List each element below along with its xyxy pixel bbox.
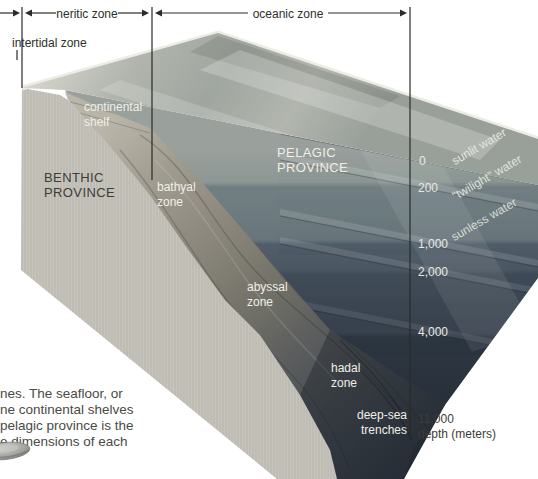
caption-line-3: pelagic province is the <box>0 418 134 433</box>
hadal-zone-label: hadal zone <box>331 361 360 390</box>
svg-text:deep-sea: deep-sea <box>357 408 407 422</box>
intertidal-zone-label: intertidal zone <box>12 36 87 50</box>
depth-200: 200 <box>418 181 438 195</box>
svg-text:PELAGIC: PELAGIC <box>277 145 336 160</box>
depth-4000: 4,000 <box>418 325 448 339</box>
svg-text:PROVINCE: PROVINCE <box>277 160 348 175</box>
caption-line-1: nes. The seafloor, or <box>0 386 123 401</box>
depth-1000: 1,000 <box>418 237 448 251</box>
deep-sea-trenches-label: deep-sea trenches <box>357 408 407 437</box>
caption-text: nes. The seafloor, or ne continental she… <box>0 386 134 449</box>
svg-text:hadal: hadal <box>331 361 360 375</box>
neritic-zone-label: neritic zone <box>56 7 118 21</box>
oceanic-zone-label: oceanic zone <box>253 7 324 21</box>
svg-text:trenches: trenches <box>361 423 407 437</box>
svg-text:zone: zone <box>157 195 183 209</box>
svg-text:bathyal: bathyal <box>157 180 196 194</box>
svg-text:shelf: shelf <box>84 115 110 129</box>
depth-2000: 2,000 <box>418 265 448 279</box>
svg-text:zone: zone <box>247 295 273 309</box>
svg-text:PROVINCE: PROVINCE <box>44 185 115 200</box>
depth-11000: 11,000 <box>418 412 454 426</box>
ocean-zones-figure: neritic zone oceanic zone intertidal zon… <box>0 0 538 479</box>
depth-unit-label: depth (meters) <box>418 427 496 441</box>
svg-text:continental: continental <box>84 100 142 114</box>
ocean-zones-diagram: neritic zone oceanic zone intertidal zon… <box>0 0 538 479</box>
svg-text:zone: zone <box>331 376 357 390</box>
caption-line-2: ne continental shelves <box>0 402 134 417</box>
svg-text:abyssal: abyssal <box>247 280 288 294</box>
svg-text:BENTHIC: BENTHIC <box>44 170 104 185</box>
depth-0: 0 <box>419 154 426 168</box>
